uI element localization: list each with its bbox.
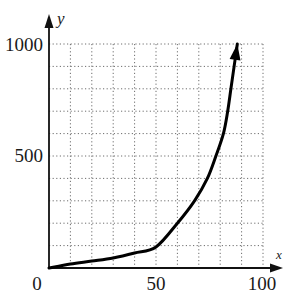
y-axis-arrow-icon bbox=[45, 14, 54, 28]
x-axis-arrow-icon bbox=[270, 264, 283, 273]
x-axis-label: x bbox=[275, 247, 282, 262]
y-axis-label: y bbox=[55, 9, 65, 28]
y-tick-1000: 1000 bbox=[5, 34, 43, 55]
x-tick-50: 50 bbox=[147, 273, 166, 294]
x-tick-100: 100 bbox=[248, 273, 277, 294]
curve-arrowhead-icon bbox=[230, 44, 241, 61]
origin-label: 0 bbox=[32, 273, 42, 294]
chart: y x 1000 500 0 50 100 bbox=[0, 0, 283, 297]
grid bbox=[49, 44, 263, 268]
axes bbox=[45, 14, 284, 273]
y-tick-500: 500 bbox=[15, 145, 44, 166]
